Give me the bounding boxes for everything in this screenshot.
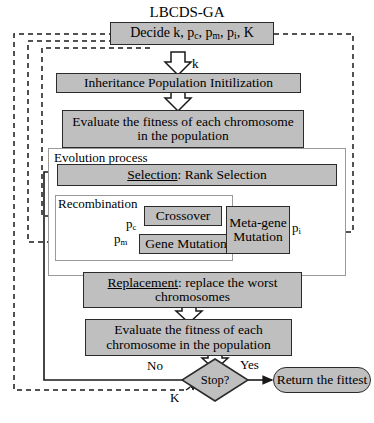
node-replacement[interactable]: Replacement: replace the worst chromosom…: [83, 272, 302, 308]
selection-label: Selection: Rank Selection: [127, 168, 266, 182]
edge-label-pm: pm: [114, 231, 127, 247]
node-stop-decision[interactable]: Stop?: [181, 358, 249, 402]
diagram-title: LBCDS-GA: [0, 4, 374, 21]
stop-label: Stop?: [181, 358, 249, 402]
evaluate2-line2: chromosome in the population: [106, 338, 271, 352]
node-meta-gene-mutation[interactable]: Meta-gene Mutation: [226, 206, 290, 254]
evaluate1-line2: in the population: [137, 129, 229, 143]
node-evaluate-fitness-2[interactable]: Evaluate the fitness of each chromosome …: [85, 319, 292, 356]
recombination-label: Recombination: [58, 196, 137, 212]
meta-gene-line1: Meta-gene: [229, 216, 287, 230]
node-inheritance-population-initialization[interactable]: Inheritance Population Initilization: [56, 73, 301, 93]
evaluate2-line1: Evaluate the fitness of each: [114, 323, 262, 337]
evaluate1-line1: Evaluate the fitness of each chromosome: [72, 115, 294, 129]
edge-label-k-bottom: K: [170, 390, 179, 406]
node-evaluate-fitness-1[interactable]: Evaluate the fitness of each chromosome …: [62, 110, 304, 148]
edge-label-pc: pc: [126, 216, 136, 232]
node-crossover[interactable]: Crossover: [144, 206, 222, 226]
flowchart-canvas: LBCDS-GA Decide k, pc, pm, pi, K Inherit…: [0, 0, 374, 423]
edge-label-yes: Yes: [240, 357, 259, 373]
node-selection[interactable]: Selection: Rank Selection: [57, 164, 337, 186]
node-decide-parameters[interactable]: Decide k, pc, pm, pi, K: [110, 22, 274, 45]
edge-label-no: No: [147, 358, 163, 374]
return-label: Return the fittest: [277, 373, 368, 387]
meta-gene-line2: Mutation: [233, 230, 283, 244]
replacement-line1: Replacement: replace the worst: [108, 276, 278, 290]
edge-label-k-top: k: [192, 56, 199, 72]
gene-mutation-label: Gene Mutation: [145, 237, 226, 251]
node-gene-mutation[interactable]: Gene Mutation: [139, 234, 233, 254]
node-decide-label: Decide k, pc, pm, pi, K: [130, 26, 254, 41]
node-return-fittest[interactable]: Return the fittest: [273, 367, 371, 393]
replacement-line2: chromosomes: [155, 290, 230, 304]
crossover-label: Crossover: [156, 209, 211, 223]
node-init-label: Inheritance Population Initilization: [84, 76, 273, 90]
edge-label-pi: pi: [292, 220, 301, 236]
